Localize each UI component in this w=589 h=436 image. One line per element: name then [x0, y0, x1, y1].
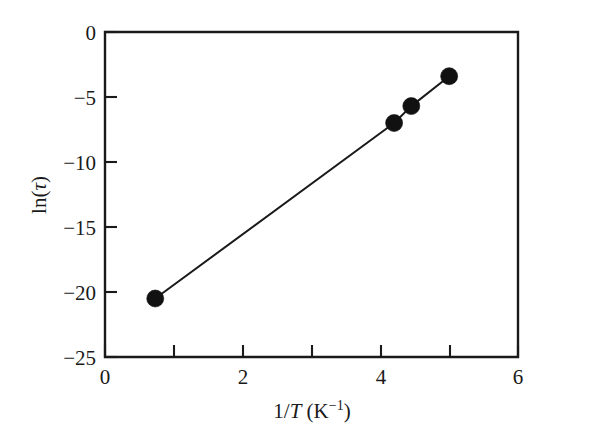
- x-tick-label-0: 0: [100, 365, 111, 389]
- y-tick-label-m5: −5: [74, 86, 96, 110]
- svg-text:ln(τ): ln(τ): [27, 176, 51, 214]
- y-tick-label-0: 0: [86, 21, 97, 45]
- x-axis-title: 1/T (K−1): [273, 398, 350, 423]
- svg-text:1/T (K−1): 1/T (K−1): [273, 398, 350, 423]
- y-tick-label-m15: −15: [63, 216, 96, 240]
- y-title-function: ln(: [27, 191, 51, 214]
- data-point-marker: [147, 290, 164, 307]
- y-tick-labels: 0 −5 −10 −15 −20 −25: [63, 21, 96, 370]
- y-tick-label-m20: −20: [63, 281, 96, 305]
- y-axis-title: ln(τ): [27, 176, 51, 214]
- x-tick-label-2: 2: [238, 365, 249, 389]
- data-point-marker: [441, 68, 458, 85]
- data-point-marker: [403, 98, 420, 115]
- x-tick-label-4: 4: [376, 365, 387, 389]
- x-tick-labels: 0 2 4 6: [100, 365, 524, 389]
- arrhenius-plot: 0 −5 −10 −15 −20 −25 0 2 4 6 1/T (K−1): [0, 0, 589, 436]
- data-point-marker: [386, 115, 403, 132]
- y-tick-label-m25: −25: [63, 346, 96, 370]
- x-title-unit-exponent: −1: [329, 398, 344, 413]
- x-title-unit-close: ): [344, 399, 351, 423]
- x-axis-ticks: [105, 345, 518, 357]
- x-title-prefix: 1/: [273, 399, 290, 423]
- data-series-group: [147, 68, 458, 307]
- y-title-close-paren: ): [27, 176, 51, 183]
- chart-figure: 0 −5 −10 −15 −20 −25 0 2 4 6 1/T (K−1): [0, 0, 589, 436]
- y-axis-ticks: [105, 32, 117, 357]
- x-tick-label-6: 6: [513, 365, 524, 389]
- y-tick-label-m10: −10: [63, 151, 96, 175]
- x-title-unit-open: (K: [301, 399, 328, 423]
